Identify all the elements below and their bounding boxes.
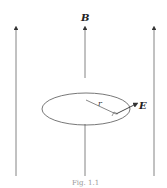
efield-label: E <box>139 100 147 111</box>
radius-label: r <box>98 99 102 108</box>
figure-caption: Fig. 1.1 <box>72 179 99 187</box>
loop-ellipse <box>42 93 130 125</box>
efield-arrow <box>116 104 136 114</box>
diagram-canvas <box>0 0 167 188</box>
field-label-b: B <box>81 12 89 23</box>
